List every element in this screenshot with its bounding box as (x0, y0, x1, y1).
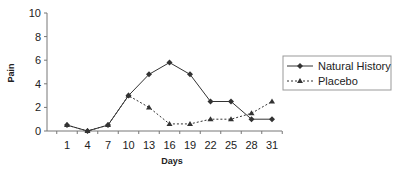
x-axis-title: Days (161, 156, 183, 166)
x-tick-label: 25 (225, 139, 237, 151)
y-axis-title: Pain (6, 63, 16, 82)
y-tick-label: 6 (35, 54, 41, 66)
x-tick-label: 19 (184, 139, 196, 151)
y-tick-label: 10 (29, 7, 41, 19)
chart-axes: 02468101471013161922252831 (29, 7, 283, 151)
x-tick-label: 31 (266, 139, 278, 151)
legend-label: Placebo (318, 75, 358, 87)
y-tick-label: 2 (35, 101, 41, 113)
x-tick-label: 16 (163, 139, 175, 151)
legend-label: Natural History (318, 60, 391, 72)
line-chart: 02468101471013161922252831 Pain Days Nat… (0, 0, 403, 174)
chart-legend: Natural HistoryPlacebo (283, 56, 391, 90)
x-tick-label: 22 (204, 139, 216, 151)
x-tick-label: 1 (64, 139, 70, 151)
x-tick-label: 7 (105, 139, 111, 151)
x-tick-label: 10 (122, 139, 134, 151)
y-tick-label: 8 (35, 31, 41, 43)
x-tick-label: 13 (143, 139, 155, 151)
y-tick-label: 0 (35, 125, 41, 137)
chart-series (64, 60, 275, 134)
x-tick-label: 4 (84, 139, 90, 151)
y-tick-label: 4 (35, 78, 41, 90)
x-tick-label: 28 (245, 139, 257, 151)
